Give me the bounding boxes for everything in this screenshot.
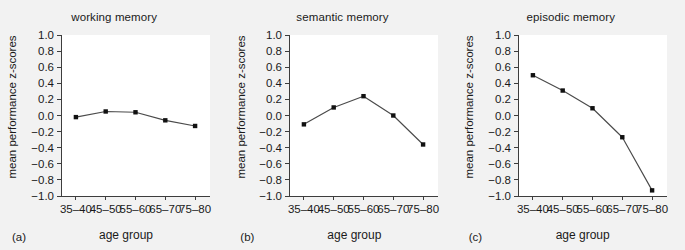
y-tick-label: 0.2: [38, 93, 54, 105]
y-tick-label: 0.2: [495, 93, 511, 105]
panel-letter: (a): [12, 231, 26, 243]
y-tick-label: −0.8: [260, 174, 283, 186]
y-tick-label: 0.2: [266, 93, 282, 105]
data-point-marker: [590, 106, 594, 110]
data-point-marker: [133, 110, 137, 114]
x-tick-label: 65–70: [606, 203, 638, 215]
data-point-marker: [620, 135, 624, 139]
panel-letter: (c): [469, 231, 482, 243]
x-tick-label: 45–50: [318, 203, 350, 215]
data-point-marker: [650, 188, 654, 192]
data-point-marker: [302, 122, 306, 126]
x-tick-label: 55–60: [576, 203, 608, 215]
x-axis-label: age group: [270, 228, 438, 242]
x-tick-label: 45–50: [546, 203, 578, 215]
data-point-marker: [391, 113, 395, 117]
y-tick-label: 1.0: [495, 29, 511, 41]
data-point-marker: [530, 73, 534, 77]
data-point-marker: [163, 118, 167, 122]
y-tick-label: 0.4: [266, 77, 283, 89]
x-tick-label: 75–80: [407, 203, 439, 215]
chart-panel-semantic-memory: semantic memory mean performance z-score…: [228, 0, 456, 250]
x-tick-label: 65–70: [378, 203, 410, 215]
y-tick-label: −1.0: [31, 190, 54, 202]
y-tick-label: −0.6: [31, 158, 54, 170]
panel-letter: (b): [240, 231, 254, 243]
x-axis-label: age group: [499, 228, 667, 242]
chart-panel-working-memory: working memory mean performance z-scores…: [0, 0, 228, 250]
y-tick-label: 0.0: [38, 110, 54, 122]
y-tick-label: 0.8: [495, 45, 511, 57]
x-tick-label: 45–50: [90, 203, 122, 215]
x-tick-label: 55–60: [120, 203, 152, 215]
x-tick-label: 55–60: [348, 203, 380, 215]
y-tick-label: 0.0: [266, 110, 282, 122]
data-point-marker: [74, 115, 78, 119]
y-tick-label: −0.8: [31, 174, 54, 186]
chart-panel-episodic-memory: episodic memory mean performance z-score…: [457, 0, 685, 250]
y-tick-label: 0.4: [495, 77, 512, 89]
y-tick-label: 0.8: [266, 45, 282, 57]
x-tick-label: 65–70: [149, 203, 181, 215]
x-tick-label: 35–40: [517, 203, 549, 215]
plot-area: 1.00.80.60.40.20.0−0.2−0.4−0.6−0.8−1.035…: [457, 0, 685, 250]
data-point-marker: [560, 88, 564, 92]
x-axis-label: age group: [42, 228, 210, 242]
y-tick-label: −0.8: [488, 174, 511, 186]
y-tick-label: −1.0: [488, 190, 511, 202]
plot-svg-2: 1.00.80.60.40.20.0−0.2−0.4−0.6−0.8−1.035…: [457, 0, 685, 250]
y-tick-label: 0.4: [38, 77, 55, 89]
data-point-marker: [332, 105, 336, 109]
data-point-marker: [193, 124, 197, 128]
plot-svg-0: 1.00.80.60.40.20.0−0.2−0.4−0.6−0.8−1.035…: [0, 0, 228, 250]
y-tick-label: −0.2: [260, 126, 283, 138]
x-tick-label: 75–80: [179, 203, 211, 215]
y-tick-label: 0.6: [266, 61, 282, 73]
data-point-marker: [104, 109, 108, 113]
x-tick-label: 75–80: [636, 203, 668, 215]
plot-svg-1: 1.00.80.60.40.20.0−0.2−0.4−0.6−0.8−1.035…: [228, 0, 456, 250]
plot-area: 1.00.80.60.40.20.0−0.2−0.4−0.6−0.8−1.035…: [0, 0, 228, 250]
plot-area: 1.00.80.60.40.20.0−0.2−0.4−0.6−0.8−1.035…: [228, 0, 456, 250]
y-tick-label: −0.4: [31, 142, 54, 154]
y-tick-label: −0.4: [488, 142, 511, 154]
y-tick-label: −0.6: [260, 158, 283, 170]
plot-background: [289, 35, 438, 196]
plot-background: [518, 35, 667, 196]
y-tick-label: 0.6: [38, 61, 54, 73]
y-tick-label: 0.8: [38, 45, 54, 57]
y-tick-label: −1.0: [260, 190, 283, 202]
x-tick-label: 35–40: [288, 203, 320, 215]
y-tick-label: 0.6: [495, 61, 511, 73]
data-point-marker: [362, 94, 366, 98]
y-tick-label: 1.0: [266, 29, 282, 41]
data-point-marker: [421, 142, 425, 146]
y-tick-label: −0.2: [31, 126, 54, 138]
y-tick-label: −0.2: [488, 126, 511, 138]
y-tick-label: −0.4: [260, 142, 283, 154]
y-tick-label: −0.6: [488, 158, 511, 170]
figure-container: working memory mean performance z-scores…: [0, 0, 685, 250]
x-tick-label: 35–40: [60, 203, 92, 215]
y-tick-label: 1.0: [38, 29, 54, 41]
y-tick-label: 0.0: [495, 110, 511, 122]
